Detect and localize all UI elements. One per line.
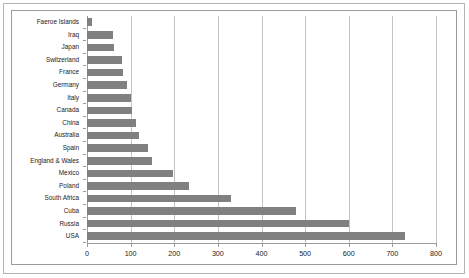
category-label: Poland — [12, 180, 83, 193]
category-axis-labels: Faeroe IslandsIraqJapanSwitzerlandFrance… — [12, 16, 83, 243]
bar-cuba — [87, 207, 296, 215]
bar-row — [87, 180, 436, 193]
plot-area — [87, 16, 436, 243]
bar-south-africa — [87, 195, 231, 203]
x-axis-tick-labels: 0100200300400500600700800 — [87, 249, 436, 261]
bar-row — [87, 29, 436, 42]
category-label: Mexico — [12, 167, 83, 180]
category-label: USA — [12, 230, 83, 243]
x-tick-label: 800 — [430, 249, 442, 258]
x-axis-tick-marks — [87, 244, 436, 248]
x-tick-label: 700 — [386, 249, 398, 258]
bar-row — [87, 16, 436, 29]
x-tick-200 — [174, 244, 175, 247]
category-label: China — [12, 117, 83, 130]
category-label: Japan — [12, 41, 83, 54]
bar-row — [87, 92, 436, 105]
x-tick-500 — [305, 244, 306, 247]
bar-row — [87, 205, 436, 218]
bar-iraq — [87, 31, 113, 39]
category-label: Iraq — [12, 29, 83, 42]
x-tick-label: 300 — [212, 249, 224, 258]
bar-row — [87, 218, 436, 231]
x-tick-100 — [131, 244, 132, 247]
category-label: Russia — [12, 218, 83, 231]
x-tick-800 — [436, 244, 437, 247]
category-label: Cuba — [12, 205, 83, 218]
bar-spain — [87, 144, 148, 152]
bar-faeroe-islands — [87, 18, 92, 26]
x-tick-label: 100 — [125, 249, 137, 258]
bar-france — [87, 69, 123, 77]
gridline-800 — [436, 16, 437, 243]
bar-canada — [87, 107, 132, 115]
category-label: Switzerland — [12, 54, 83, 67]
category-label: Italy — [12, 92, 83, 105]
bar-row — [87, 129, 436, 142]
bar-row — [87, 192, 436, 205]
bar-row — [87, 54, 436, 67]
bar-japan — [87, 44, 114, 52]
category-label: Canada — [12, 104, 83, 117]
x-tick-label: 200 — [168, 249, 180, 258]
chart-plot-frame: Faeroe IslandsIraqJapanSwitzerlandFrance… — [11, 10, 457, 265]
x-tick-label: 500 — [299, 249, 311, 258]
bar-row — [87, 230, 436, 243]
bar-poland — [87, 182, 189, 190]
bar-row — [87, 104, 436, 117]
bar-row — [87, 155, 436, 168]
x-tick-400 — [262, 244, 263, 247]
bar-australia — [87, 132, 139, 140]
bar-mexico — [87, 170, 173, 178]
bar-switzerland — [87, 56, 122, 64]
bar-chart-figure: Faeroe IslandsIraqJapanSwitzerlandFrance… — [0, 0, 469, 278]
x-tick-700 — [392, 244, 393, 247]
bar-germany — [87, 81, 127, 89]
bar-england-wales — [87, 157, 152, 165]
bar-russia — [87, 220, 349, 228]
category-label: France — [12, 66, 83, 79]
category-label: Australia — [12, 129, 83, 142]
category-label: Germany — [12, 79, 83, 92]
x-tick-label: 600 — [343, 249, 355, 258]
bar-series — [87, 16, 436, 243]
x-tick-label: 400 — [256, 249, 268, 258]
bar-row — [87, 66, 436, 79]
x-tick-600 — [349, 244, 350, 247]
bar-row — [87, 79, 436, 92]
x-tick-label: 0 — [85, 249, 89, 258]
bar-china — [87, 119, 136, 127]
category-label: Spain — [12, 142, 83, 155]
category-label: Faeroe Islands — [12, 16, 83, 29]
bar-italy — [87, 94, 131, 102]
category-label: England & Wales — [12, 155, 83, 168]
x-tick-0 — [87, 244, 88, 247]
bar-row — [87, 142, 436, 155]
category-label: South Africa — [12, 192, 83, 205]
bar-row — [87, 117, 436, 130]
bar-row — [87, 41, 436, 54]
bar-usa — [87, 232, 405, 240]
bar-row — [87, 167, 436, 180]
x-tick-300 — [218, 244, 219, 247]
